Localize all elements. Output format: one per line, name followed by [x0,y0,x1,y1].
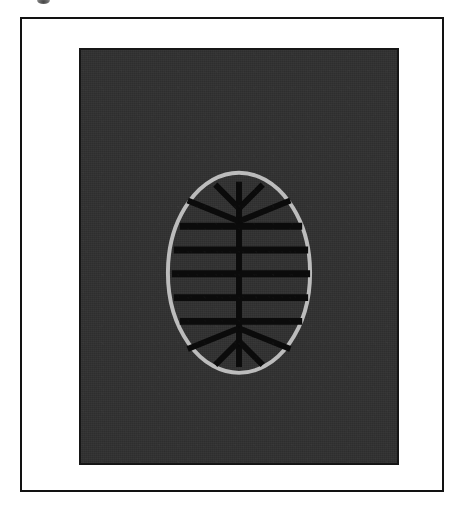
dark-plate-panel [79,48,399,465]
figure-page [0,0,463,512]
plate-frame-border [20,17,444,492]
branch-top-inner-2 [239,185,263,209]
branch-bottom-inner-2 [239,341,263,365]
oval-fishbone-glyph-svg [81,50,397,463]
branch-top-inner-1 [215,185,239,209]
branch-bottom-inner-1 [215,341,239,365]
glyph-stage [81,50,397,463]
scan-smudge-artifact [37,0,50,4]
